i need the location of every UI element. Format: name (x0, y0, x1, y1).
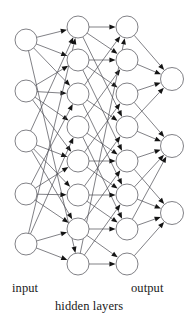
network-edge (35, 97, 63, 117)
network-edge (137, 64, 155, 72)
neuron-node-input-3 (15, 130, 37, 152)
neuron-node-hidden1-7 (67, 218, 89, 240)
network-edge (137, 152, 154, 158)
neuron-node-input-4 (15, 183, 37, 205)
edge-arrowhead-icon (109, 25, 115, 30)
edge-arrowhead-icon (72, 246, 77, 253)
edge-arrowhead-icon (60, 90, 66, 95)
neuron-node-hidden1-5 (67, 150, 89, 172)
edge-arrowhead-icon (109, 262, 115, 267)
edge-arrowhead-icon (60, 192, 66, 197)
neuron-node-hidden2-5 (116, 150, 138, 172)
edge-arrowhead-icon (62, 167, 69, 172)
edge-arrowhead-icon (154, 82, 161, 87)
edge-arrowhead-icon (109, 193, 115, 198)
neuron-node-hidden2-4 (116, 116, 138, 138)
edge-arrowhead-icon (117, 110, 122, 117)
network-canvas (0, 0, 192, 326)
network-edge (84, 209, 116, 255)
neuron-node-hidden1-3 (67, 83, 89, 105)
edge-arrowhead-icon (111, 115, 118, 121)
edge-arrowhead-icon (154, 149, 161, 154)
edge-arrowhead-icon (117, 178, 122, 185)
neuron-node-hidden1-1 (67, 16, 89, 38)
edge-arrowhead-icon (61, 255, 68, 260)
edge-layer (28, 25, 166, 267)
neuron-node-hidden2-2 (116, 49, 138, 71)
edge-arrowhead-icon (69, 137, 74, 144)
neuron-node-input-2 (15, 80, 37, 102)
network-edge (137, 219, 155, 225)
edge-arrowhead-icon (109, 58, 115, 63)
edge-arrowhead-icon (111, 48, 118, 54)
network-edge (137, 85, 154, 91)
edge-arrowhead-icon (154, 204, 161, 209)
network-edge (135, 92, 160, 119)
network-edge (87, 66, 113, 84)
network-edge (84, 41, 116, 85)
edge-arrowhead-icon (60, 29, 67, 34)
edge-arrowhead-icon (62, 66, 69, 71)
neuron-node-hidden1-8 (67, 253, 89, 275)
network-edge (87, 235, 113, 253)
neuron-node-hidden2-3 (116, 83, 138, 105)
edge-arrowhead-icon (111, 183, 118, 189)
neuron-node-output-3 (161, 202, 184, 225)
neuron-node-hidden2-8 (116, 253, 138, 275)
edge-arrowhead-icon (111, 217, 118, 223)
network-edge (87, 133, 113, 151)
layer-label-output: output (131, 281, 164, 296)
neuron-node-hidden2-1 (116, 16, 138, 38)
edge-arrowhead-icon (111, 252, 117, 258)
network-edge (33, 100, 68, 147)
edge-arrowhead-icon (115, 36, 121, 42)
neuron-node-hidden1-4 (67, 116, 89, 138)
neural-network-diagram: input output hidden layers (0, 0, 192, 326)
neuron-node-hidden2-7 (116, 218, 138, 240)
edge-arrowhead-icon (109, 227, 115, 232)
neuron-node-input-1 (15, 29, 37, 51)
edge-arrowhead-icon (117, 212, 122, 219)
network-edge (35, 170, 63, 188)
network-edge (31, 110, 70, 185)
edge-arrowhead-icon (111, 149, 118, 155)
network-edge (83, 37, 119, 111)
edge-arrowhead-icon (68, 104, 73, 111)
network-edge (35, 200, 63, 219)
neuron-node-hidden2-6 (116, 184, 138, 206)
network-edge (36, 248, 61, 258)
neuron-node-output-1 (161, 68, 184, 91)
network-edge (35, 69, 62, 85)
edge-arrowhead-icon (60, 231, 67, 236)
network-edge (37, 31, 61, 37)
network-edge (134, 159, 159, 187)
edge-arrowhead-icon (154, 217, 161, 222)
neuron-node-hidden1-2 (67, 49, 89, 71)
neuron-node-output-2 (161, 135, 184, 158)
network-edge (36, 44, 61, 54)
edge-arrowhead-icon (121, 38, 126, 45)
edge-arrowhead-icon (109, 159, 115, 164)
layer-label-input: input (12, 281, 38, 296)
edge-arrowhead-icon (154, 137, 161, 142)
neuron-node-hidden1-6 (67, 184, 89, 206)
neuron-node-input-5 (15, 233, 37, 255)
layer-label-hidden: hidden layers (55, 299, 123, 314)
edge-arrowhead-icon (154, 70, 161, 75)
edge-arrowhead-icon (117, 144, 122, 151)
network-edge (37, 234, 62, 241)
network-edge (87, 167, 113, 185)
network-edge (87, 33, 112, 50)
network-edge (87, 201, 113, 219)
network-edge (137, 131, 155, 139)
